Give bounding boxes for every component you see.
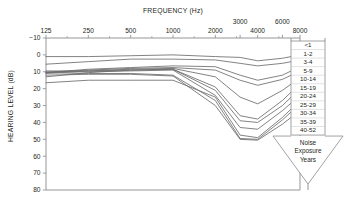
plot-frame [46,38,300,190]
data-curves [46,55,300,140]
arrow-label-line: Noise [300,139,317,146]
legend-item-label: 10-14 [300,75,316,82]
legend-item-label: 1-2 [304,50,314,57]
y-tick-label: 20 [33,85,41,92]
legend-item-label: 20-24 [300,92,316,99]
arrow-label-line: Years [300,156,316,163]
y-tick-label: −10 [29,34,41,41]
x-tick-label: 1000 [166,27,181,34]
audiogram-chart: 125250500100020004000800030006000FREQUEN… [0,0,351,208]
x-axis-title: FREQUENCY (Hz) [143,7,203,15]
legend: <11-23-45-910-1415-1920-2425-2930-3435-3… [291,41,325,135]
x-tick-label: 6000 [275,18,290,25]
data-series-line [46,80,300,137]
legend-item-label: 40-52 [300,126,316,133]
x-tick-label: 8000 [293,27,308,34]
y-tick-label: 0 [37,51,41,58]
y-axis-title: HEARING LEVEL (dB) [7,70,15,142]
legend-item-label: <1 [304,41,312,48]
y-tick-label: 80 [33,186,41,193]
x-tick-label: 3000 [233,18,248,25]
x-tick-label: 4000 [250,27,265,34]
data-series-line [46,73,300,140]
y-tick-label: 10 [33,68,41,75]
data-series-line [46,69,300,119]
y-tick-label: 50 [33,136,41,143]
legend-item-label: 35-39 [300,118,316,125]
y-tick-label: 40 [33,119,41,126]
x-tick-label: 125 [40,27,51,34]
chart-canvas: 125250500100020004000800030006000FREQUEN… [0,0,351,208]
x-tick-label: 250 [83,27,94,34]
data-series-line [46,55,300,61]
data-series-line [46,69,300,122]
y-tick-label: 60 [33,153,41,160]
legend-item-label: 3-4 [304,58,314,65]
legend-item-label: 30-34 [300,109,316,116]
legend-item-label: 5-9 [304,67,314,74]
y-tick-label: 30 [33,102,41,109]
x-tick-label: 2000 [208,27,223,34]
legend-item-label: 15-19 [300,84,316,91]
arrow-label-line: Exposure [295,147,322,155]
y-tick-label: 70 [33,169,41,176]
x-tick-label: 500 [125,27,136,34]
legend-item-label: 25-29 [300,101,316,108]
